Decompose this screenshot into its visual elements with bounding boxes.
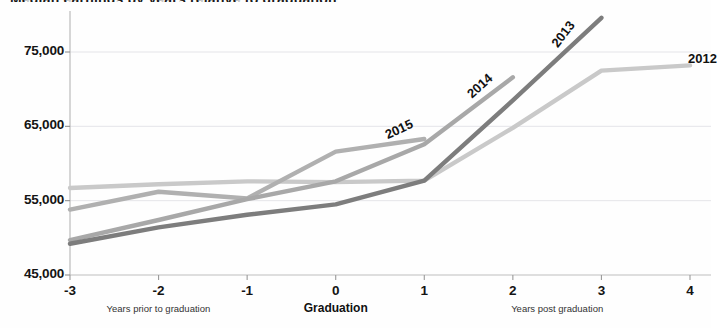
x-axis-label-neg2: -2 xyxy=(139,283,179,298)
y-axis-label-65000: 65,000 xyxy=(2,117,64,132)
x-axis-group-label-years-post-graduation: Years post graduation xyxy=(511,303,603,314)
gridlines xyxy=(70,52,711,275)
x-axis-group-label-years-prior-to-graduation: Years prior to graduation xyxy=(107,303,211,314)
y-axis-label-55000: 55,000 xyxy=(2,192,64,207)
x-axis-label-neg1: -1 xyxy=(227,283,267,298)
y-axis-label-45000: 45,000 xyxy=(2,266,64,281)
x-axis-label-1: 1 xyxy=(404,283,444,298)
y-axis-label-75000: 75,000 xyxy=(2,43,64,58)
x-axis-label-2: 2 xyxy=(493,283,533,298)
x-axis-label-3: 3 xyxy=(581,283,621,298)
x-axis-label-4: 4 xyxy=(670,283,710,298)
x-axis-group-label-graduation: Graduation xyxy=(304,301,368,315)
series-label-2012: 2012 xyxy=(688,51,717,66)
x-axis-label-0: 0 xyxy=(316,283,356,298)
x-axis-label-neg3: -3 xyxy=(50,283,90,298)
